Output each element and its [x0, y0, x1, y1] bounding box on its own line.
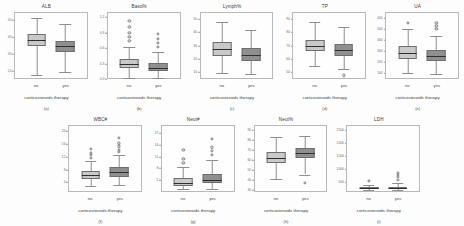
- y-tick-label: 80: [247, 138, 251, 142]
- outlier-point: [128, 19, 131, 22]
- cap-lower: [309, 66, 321, 67]
- whisker-lower: [407, 59, 408, 74]
- cap-lower: [31, 75, 43, 76]
- cap-lower: [245, 74, 257, 75]
- median-line: [213, 49, 232, 50]
- whisker-upper: [251, 30, 252, 48]
- panel-title: TP: [278, 4, 371, 9]
- cap-lower: [152, 78, 164, 79]
- panel-label: (c): [186, 106, 279, 111]
- x-axis-title: corticosteroids therapy: [0, 95, 93, 100]
- y-tick-label: 70: [247, 148, 251, 152]
- cap-lower: [85, 186, 97, 187]
- boxplot-no: [306, 13, 325, 78]
- cap-upper: [124, 47, 136, 48]
- x-tick-label-yes: yes: [395, 196, 402, 201]
- whisker-upper: [65, 24, 66, 40]
- y-tick-label: 400: [377, 38, 383, 42]
- median-line: [56, 46, 75, 47]
- panel-neut: Neut%90807060504030noyescorticosteroids …: [240, 113, 333, 226]
- outlier-point: [156, 32, 159, 35]
- y-tick-label: 50: [247, 168, 251, 172]
- cap-upper: [363, 185, 375, 186]
- y-tick-label: 30: [247, 188, 251, 192]
- panel-title: Lymph%: [186, 4, 279, 9]
- whisker-upper: [90, 161, 91, 171]
- y-axis: 9080706050: [278, 12, 292, 79]
- outlier-point: [210, 137, 213, 140]
- outlier-point: [435, 24, 438, 27]
- x-tick-label-yes: yes: [341, 83, 348, 88]
- outlier-point: [128, 25, 131, 28]
- x-axis-title: corticosteroids therapy: [332, 208, 425, 213]
- x-tick-label-no: no: [219, 83, 224, 88]
- whisker-upper: [343, 27, 344, 44]
- panel-label: (a): [0, 106, 93, 111]
- y-tick-label: 1500: [337, 154, 344, 158]
- x-tick-label-no: no: [366, 196, 371, 201]
- cap-lower: [299, 175, 311, 176]
- panel-title: Neut#: [147, 117, 240, 122]
- outlier-point: [435, 28, 438, 31]
- boxplot-no: [174, 126, 193, 191]
- outlier-point: [210, 153, 213, 156]
- whisker-lower: [222, 56, 223, 73]
- y-tick-label: 60: [247, 158, 251, 162]
- plot-area: [292, 12, 366, 79]
- outlier-point: [128, 31, 131, 34]
- y-axis: 50403020: [0, 12, 14, 79]
- cap-upper: [402, 29, 414, 30]
- median-line: [174, 183, 193, 184]
- median-line: [296, 153, 315, 154]
- boxplot-no: [267, 126, 286, 191]
- cap-lower: [363, 190, 375, 191]
- y-axis: 20161284: [54, 125, 68, 192]
- y-tick-label: 50: [8, 18, 12, 22]
- median-line: [120, 64, 139, 65]
- plot-area: [200, 12, 274, 79]
- boxplot-figure: ALB50403020noyescorticosteroids therapy(…: [0, 0, 464, 226]
- panel-lymph: Lymph%5040302010noyescorticosteroids the…: [186, 0, 279, 113]
- y-tick-label: 10: [193, 70, 197, 74]
- whisker-upper: [315, 22, 316, 40]
- y-tick-label: 40: [193, 30, 197, 34]
- y-tick-label: 50: [193, 17, 197, 21]
- boxplot-no: [81, 126, 100, 191]
- panel-alb: ALB50403020noyescorticosteroids therapy(…: [0, 0, 93, 113]
- x-axis-labels: noyes: [254, 196, 328, 204]
- y-axis: 2500200015001000500: [332, 125, 346, 192]
- plot-area: [14, 12, 88, 79]
- y-tick-label: 600: [377, 16, 383, 20]
- outlier-point: [182, 148, 185, 151]
- panel-neut: Neut#17141185noyescorticosteroids therap…: [147, 113, 240, 226]
- panel-label: (g): [147, 219, 240, 224]
- whisker-lower: [129, 68, 130, 78]
- x-tick-label-yes: yes: [209, 196, 216, 201]
- x-axis-title: corticosteroids therapy: [240, 208, 333, 213]
- x-axis-labels: noyes: [14, 83, 88, 91]
- x-tick-label-yes: yes: [248, 83, 255, 88]
- panel-row-top: ALB50403020noyescorticosteroids therapy(…: [0, 0, 464, 113]
- cap-upper: [152, 52, 164, 53]
- outlier-point: [118, 136, 121, 139]
- x-axis-labels: noyes: [200, 83, 274, 91]
- y-tick-label: 40: [8, 35, 12, 39]
- x-axis-title: corticosteroids therapy: [278, 95, 371, 100]
- x-axis-labels: noyes: [292, 83, 366, 91]
- whisker-upper: [36, 18, 37, 34]
- boxplot-yes: [388, 126, 407, 191]
- outlier-point: [367, 179, 370, 182]
- median-line: [334, 50, 353, 51]
- boxplot-no: [213, 13, 232, 78]
- whisker-lower: [436, 61, 437, 73]
- y-tick-label: 90: [247, 128, 251, 132]
- y-tick-label: 80: [286, 30, 290, 34]
- whisker-lower: [119, 177, 120, 186]
- median-line: [242, 55, 261, 56]
- boxplot-yes: [203, 126, 222, 191]
- panel-title: ALB: [0, 4, 93, 9]
- y-tick-label: 30: [193, 44, 197, 48]
- outlier-point: [342, 74, 345, 77]
- x-axis-labels: noyes: [385, 83, 459, 91]
- outlier-point: [156, 37, 159, 40]
